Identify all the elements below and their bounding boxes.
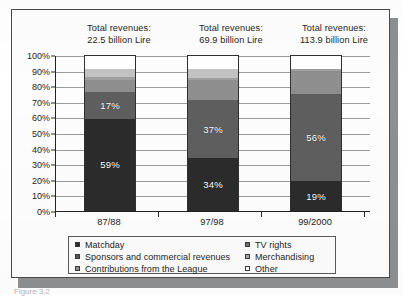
y-tick-label-80: 80% — [32, 82, 50, 92]
legend-label: Sponsors and commercial revenues — [85, 252, 230, 262]
legend-column-right: TV rightsMerchandisingOther — [245, 239, 314, 275]
bar-87-88[interactable]: 59%17% — [84, 55, 136, 211]
figure-caption: Figure 3.2 — [14, 287, 50, 296]
legend-item-sponsors-and-commercial-revenues[interactable]: Sponsors and commercial revenues — [75, 251, 230, 263]
total-revenue-label-1: Total revenues: — [172, 22, 290, 34]
x-tick-mark-0 — [55, 212, 56, 217]
y-tick-label-50: 50% — [32, 129, 50, 139]
legend-swatch-icon — [245, 254, 250, 259]
total-revenue-value-1: 69.9 billion Lire — [172, 34, 290, 46]
x-axis: 87/8897/9899/2000 — [55, 212, 370, 230]
data-label-2-1: 56% — [306, 132, 326, 143]
bar-segment-2-matchday[interactable]: 19% — [291, 181, 341, 211]
data-label-1-1: 37% — [203, 124, 223, 135]
total-revenue-value-2: 113.9 billion Lire — [275, 34, 393, 46]
legend-label: Matchday — [85, 240, 124, 250]
data-label-0-0: 59% — [100, 159, 120, 170]
x-tick-mark-3 — [364, 212, 365, 217]
legend-label: Other — [255, 264, 278, 274]
y-tick-label-10: 10% — [32, 191, 50, 201]
y-tick-label-0: 0% — [37, 207, 50, 217]
bar-segment-1-merchandising[interactable] — [188, 78, 238, 80]
legend-item-other[interactable]: Other — [245, 263, 314, 275]
legend-item-merchandising[interactable]: Merchandising — [245, 251, 314, 263]
bar-segment-2-sponsors-and-commercial-revenues[interactable] — [291, 71, 341, 94]
bar-segment-2-other[interactable] — [291, 55, 341, 69]
total-revenue-annotations: Total revenues: 22.5 billion Lire Total … — [12, 22, 391, 56]
chart-legend: MatchdaySponsors and commercial revenues… — [68, 236, 336, 274]
legend-label: TV rights — [255, 240, 291, 250]
bar-segment-0-other[interactable] — [85, 55, 135, 69]
legend-swatch-icon — [75, 254, 80, 259]
legend-label: Contributions from the League — [85, 264, 208, 274]
total-revenue-value-0: 22.5 billion Lire — [60, 34, 178, 46]
figure-paper: Total revenues: 22.5 billion Lire Total … — [11, 9, 390, 278]
data-label-0-1: 17% — [100, 100, 120, 111]
legend-column-left: MatchdaySponsors and commercial revenues… — [75, 239, 230, 275]
bar-segment-1-sponsors-and-commercial-revenues[interactable] — [188, 80, 238, 100]
bar-segment-2-tv-rights[interactable]: 56% — [291, 94, 341, 181]
x-tick-mark-2 — [261, 212, 262, 217]
legend-item-matchday[interactable]: Matchday — [75, 239, 230, 251]
legend-label: Merchandising — [255, 252, 314, 262]
y-tick-label-20: 20% — [32, 176, 50, 186]
legend-swatch-icon — [245, 242, 250, 247]
y-tick-label-40: 40% — [32, 145, 50, 155]
y-tick-label-60: 60% — [32, 113, 50, 123]
bar-97-98[interactable]: 34%37% — [187, 55, 239, 211]
bar-99-2000[interactable]: 19%56% — [290, 55, 342, 211]
total-revenue-annotation-1: Total revenues: 69.9 billion Lire — [172, 22, 290, 46]
bar-segment-0-matchday[interactable]: 59% — [85, 119, 135, 211]
bar-segment-0-contributions-from-the-league[interactable] — [85, 69, 135, 77]
bar-segment-0-sponsors-and-commercial-revenues[interactable] — [85, 80, 135, 92]
x-axis-label-97-98: 97/98 — [200, 217, 223, 227]
x-tick-mark-1 — [158, 212, 159, 217]
chart-plot: 0%10%20%30%40%50%60%70%80%90%100% 59%17%… — [12, 56, 391, 226]
x-axis-label-87-88: 87/88 — [97, 217, 120, 227]
bar-segment-2-merchandising[interactable] — [291, 69, 341, 71]
total-revenue-annotation-2: Total revenues: 113.9 billion Lire — [275, 22, 393, 46]
x-axis-label-99-2000: 99/2000 — [298, 217, 332, 227]
plot-area: 59%17% 34%37% 19%56% — [55, 56, 370, 212]
bar-segment-1-other[interactable] — [188, 55, 238, 69]
total-revenue-label-0: Total revenues: — [60, 22, 178, 34]
total-revenue-label-2: Total revenues: — [275, 22, 393, 34]
y-tick-label-30: 30% — [32, 160, 50, 170]
total-revenue-annotation-0: Total revenues: 22.5 billion Lire — [60, 22, 178, 46]
data-label-2-0: 19% — [306, 191, 326, 202]
bar-segment-1-matchday[interactable]: 34% — [188, 158, 238, 211]
y-tick-label-90: 90% — [32, 67, 50, 77]
legend-item-contributions-from-the-league[interactable]: Contributions from the League — [75, 263, 230, 275]
legend-swatch-icon — [75, 242, 80, 247]
y-axis-tick-labels: 0%10%20%30%40%50%60%70%80%90%100% — [12, 56, 55, 212]
y-tick-label-100: 100% — [27, 51, 50, 61]
bar-segment-0-tv-rights[interactable]: 17% — [85, 92, 135, 119]
bar-segment-1-contributions-from-the-league[interactable] — [188, 69, 238, 78]
bar-segment-0-merchandising[interactable] — [85, 77, 135, 80]
y-tick-label-70: 70% — [32, 98, 50, 108]
legend-swatch-icon — [245, 266, 250, 271]
data-label-1-0: 34% — [203, 179, 223, 190]
legend-swatch-icon — [75, 266, 80, 271]
bar-segment-1-tv-rights[interactable]: 37% — [188, 100, 238, 158]
legend-item-tv-rights[interactable]: TV rights — [245, 239, 314, 251]
